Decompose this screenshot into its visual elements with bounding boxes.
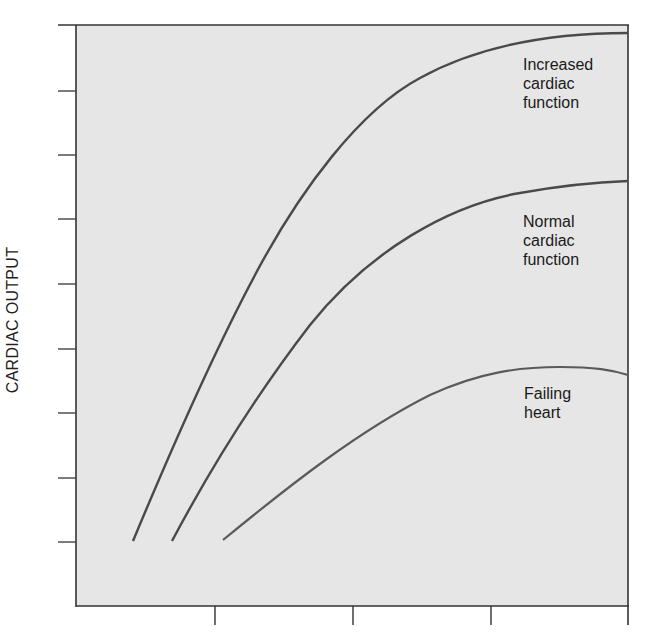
label-normal-cardiac-function: Normal cardiac function — [523, 212, 579, 269]
x-ticks — [215, 606, 491, 625]
y-axis-label: CARDIAC OUTPUT — [4, 240, 24, 400]
plot-area — [76, 25, 628, 606]
label-increased-cardiac-function: Increased cardiac function — [523, 55, 593, 112]
label-failing-heart: Failing heart — [524, 384, 571, 422]
y-ticks — [58, 91, 76, 542]
